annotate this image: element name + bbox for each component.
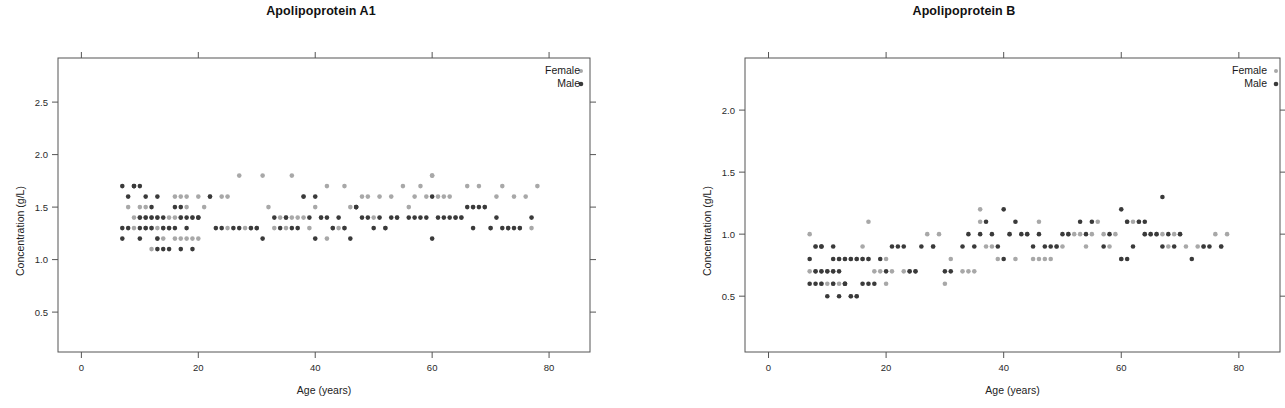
plot-area-a1: 0204060800.51.01.52.02.5 (0, 0, 642, 408)
svg-text:20: 20 (193, 362, 204, 373)
svg-text:80: 80 (544, 362, 555, 373)
svg-text:0: 0 (766, 362, 771, 373)
x-axis-title-b: Age (years) (745, 384, 1280, 396)
svg-text:1.5: 1.5 (722, 167, 735, 178)
svg-text:40: 40 (310, 362, 321, 373)
panel-apolipoprotein-b: Apolipoprotein B 0204060800.51.01.52.0 A… (643, 0, 1285, 408)
svg-text:60: 60 (1116, 362, 1127, 373)
svg-text:1.0: 1.0 (35, 254, 48, 265)
svg-text:20: 20 (881, 362, 892, 373)
svg-text:1.0: 1.0 (722, 229, 735, 240)
svg-text:40: 40 (998, 362, 1009, 373)
legend-label-male-b: Male (1244, 77, 1267, 89)
svg-text:60: 60 (427, 362, 438, 373)
svg-text:2.0: 2.0 (722, 105, 735, 116)
legend-label-female-a1: Female (545, 64, 580, 76)
svg-text:2.5: 2.5 (35, 97, 48, 108)
y-axis-title-b: Concentration (g/L) (701, 186, 713, 276)
x-axis-title-a1: Age (years) (58, 384, 590, 396)
svg-text:0: 0 (79, 362, 84, 373)
svg-text:80: 80 (1234, 362, 1245, 373)
svg-text:1.5: 1.5 (35, 202, 48, 213)
panel-apolipoprotein-a1: Apolipoprotein A1 0204060800.51.01.52.02… (0, 0, 642, 408)
plot-area-b: 0204060800.51.01.52.0 (643, 0, 1285, 408)
svg-text:2.0: 2.0 (35, 149, 48, 160)
legend-label-male-a1: Male (557, 77, 580, 89)
svg-text:0.5: 0.5 (722, 291, 735, 302)
y-axis-title-a1: Concentration (g/L) (14, 186, 26, 276)
legend-label-female-b: Female (1232, 64, 1267, 76)
svg-text:0.5: 0.5 (35, 307, 48, 318)
scatter-plot-figure: Apolipoprotein A1 0204060800.51.01.52.02… (0, 0, 1285, 408)
